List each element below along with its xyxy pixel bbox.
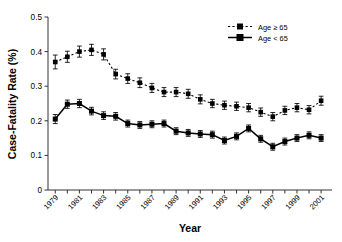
x-tick-label: 1983 [90, 193, 108, 211]
data-point-marker [137, 122, 142, 127]
legend-marker-square-dashed [237, 24, 243, 30]
y-tick-label: 0.3 [31, 82, 43, 91]
series-age-under-65 [53, 99, 324, 150]
x-tick-label: 1987 [139, 193, 157, 211]
data-point-marker [150, 86, 155, 91]
y-tick-label: 0.5 [31, 13, 43, 22]
legend-label-age-under-65: Age < 65 [258, 34, 288, 43]
data-point-marker [210, 101, 215, 106]
series-line [55, 104, 321, 147]
x-tick-label: 1989 [163, 193, 181, 211]
data-point-marker [282, 139, 287, 144]
x-tick-label: 1997 [259, 193, 277, 211]
data-point-marker [53, 60, 58, 65]
data-point-marker [77, 49, 82, 54]
plot-area [53, 44, 324, 150]
data-point-marker [246, 126, 251, 131]
x-tick-label: 1979 [42, 193, 60, 211]
x-tick-label: 1985 [114, 193, 132, 211]
data-point-marker [125, 76, 130, 81]
legend-item-age-under-65: Age < 65 [228, 34, 288, 43]
data-point-marker [174, 90, 179, 95]
data-point-marker [89, 48, 94, 53]
data-point-marker [270, 144, 275, 149]
chart-figure: Case-Fatality Rate (%) Year 00.10.20.30.… [0, 0, 342, 242]
data-point-marker [234, 104, 239, 109]
x-tick-label: 1981 [66, 193, 84, 211]
y-tick-group: 00.10.20.30.40.5 [31, 13, 48, 195]
data-point-marker [258, 136, 263, 141]
legend-marker-square-solid [237, 34, 244, 41]
x-tick-label: 1995 [235, 193, 253, 211]
data-point-marker [174, 129, 179, 134]
data-point-marker [65, 102, 70, 107]
x-axis-label: Year [179, 222, 201, 234]
x-tick-label: 2001 [308, 193, 326, 211]
data-point-marker [294, 136, 299, 141]
data-point-marker [77, 101, 82, 106]
chart-legend: Age ≥ 65 Age < 65 [228, 23, 288, 43]
y-tick-label: 0.2 [31, 117, 43, 126]
data-point-marker [186, 130, 191, 135]
data-point-marker [113, 114, 118, 119]
y-axis-label: Case-Fatality Rate (%) [6, 49, 18, 159]
data-point-marker [186, 92, 191, 97]
data-point-marker [198, 97, 203, 102]
x-tick-label: 1993 [211, 193, 229, 211]
data-point-marker [222, 103, 227, 108]
data-point-marker [246, 105, 251, 110]
data-point-marker [307, 133, 312, 138]
case-fatality-rate-line-chart: Case-Fatality Rate (%) Year 00.10.20.30.… [0, 0, 342, 242]
data-point-marker [222, 138, 227, 143]
data-point-marker [125, 121, 130, 126]
y-tick-label: 0 [37, 186, 42, 195]
data-point-marker [162, 121, 167, 126]
y-tick-label: 0.4 [31, 48, 43, 57]
data-point-marker [138, 80, 143, 85]
y-tick-label: 0.1 [31, 151, 43, 160]
data-point-marker [101, 52, 106, 57]
x-tick-label: 1991 [187, 193, 205, 211]
series-line [55, 50, 321, 117]
legend-label-age-65-plus: Age ≥ 65 [258, 23, 288, 32]
data-point-marker [53, 117, 58, 122]
data-point-marker [234, 134, 239, 139]
data-point-marker [89, 109, 94, 114]
data-point-marker [283, 108, 288, 113]
x-tick-label: 1999 [284, 193, 302, 211]
data-point-marker [101, 113, 106, 118]
data-point-marker [307, 107, 312, 112]
x-tick-group: 1979198119831985198719891991199319951997… [42, 190, 326, 211]
data-point-marker [162, 90, 167, 95]
data-point-marker [295, 105, 300, 110]
data-point-marker [270, 114, 275, 119]
data-point-marker [258, 110, 263, 115]
data-point-marker [198, 131, 203, 136]
axes [48, 17, 332, 190]
data-point-marker [319, 136, 324, 141]
data-point-marker [65, 54, 70, 59]
data-point-marker [149, 122, 154, 127]
data-point-marker [210, 132, 215, 137]
legend-item-age-65-plus: Age ≥ 65 [228, 23, 288, 32]
data-point-marker [113, 72, 118, 77]
data-point-marker [319, 98, 324, 103]
